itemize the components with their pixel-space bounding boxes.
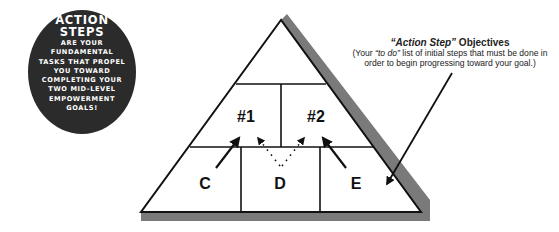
callout-title-rest: Objectives [456, 37, 509, 48]
badge-body-line: TASKS THAT PROPEL [29, 58, 135, 67]
badge-body-line: ARE YOUR [29, 39, 135, 48]
step-d-label: D [274, 175, 286, 193]
callout-body-rest: list of initial steps that must be done … [400, 48, 548, 58]
goal-2-label: #2 [307, 108, 325, 126]
badge-body-line: YOU TOWARD [29, 67, 135, 76]
callout-body-quoted: “to do” [375, 48, 400, 58]
step-c-label: C [199, 175, 211, 193]
callout-body-line1: (Your “to do” list of initial steps that… [344, 48, 556, 58]
callout-body-line2: order to begin progressing toward your g… [344, 58, 556, 68]
goal-1-label: #1 [237, 108, 255, 126]
callout-text: “Action Step” Objectives (Your “to do” l… [344, 37, 556, 68]
badge-body-line: GOALS! [29, 104, 135, 113]
badge-body-line: COMPLETING YOUR [29, 76, 135, 85]
badge-text: ACTION STEPS ARE YOUR FUNDAMENTAL TASKS … [29, 14, 135, 113]
callout-title-quoted: “Action Step” [391, 37, 457, 48]
badge-body-line: EMPOWERMENT [29, 95, 135, 104]
badge-body-line: TWO MID-LEVEL [29, 85, 135, 94]
step-e-label: E [351, 175, 362, 193]
badge-title-line2: STEPS [29, 26, 135, 38]
callout-title: “Action Step” Objectives [344, 37, 556, 48]
callout-body-prefix: (Your [352, 48, 375, 58]
badge-body-line: FUNDAMENTAL [29, 48, 135, 57]
callout-pointer-arrow [387, 73, 452, 184]
